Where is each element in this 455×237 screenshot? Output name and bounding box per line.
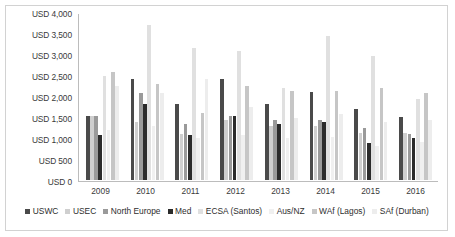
bar[interactable] [135,122,139,180]
legend-item[interactable]: Aus/NZ [269,207,304,215]
bar[interactable] [249,107,253,181]
y-axis-tick-label: USD 500 [39,157,72,165]
x-axis-tick-label: 2009 [78,184,123,198]
legend-swatch-icon [372,209,377,214]
legend-item[interactable]: WAf (Lagos) [312,207,366,215]
bar[interactable] [314,126,318,180]
bar[interactable] [180,134,184,180]
legend-swatch-icon [168,209,173,214]
chart-container: USD 4,000USD 3,500USD 3,000USD 2,500USD … [5,5,448,231]
bar[interactable] [265,104,269,180]
bar[interactable] [131,79,135,180]
bar[interactable] [290,91,294,180]
bar[interactable] [237,51,241,180]
bar[interactable] [367,143,371,180]
bar[interactable] [408,134,412,180]
bar[interactable] [331,137,335,180]
plot-area [78,14,438,182]
bar[interactable] [188,135,192,180]
bar[interactable] [269,126,273,180]
bar[interactable] [175,104,179,180]
bar[interactable] [277,124,281,180]
bar[interactable] [424,93,428,180]
bar-group [170,14,215,180]
bar[interactable] [359,133,363,180]
bar[interactable] [375,146,379,180]
bar[interactable] [282,88,286,180]
bar[interactable] [412,138,416,180]
legend-item[interactable]: USWC [25,207,58,215]
bar[interactable] [147,25,151,180]
legend-swatch-icon [103,209,108,214]
legend-item[interactable]: Med [168,207,192,215]
bar[interactable] [420,142,424,180]
bar-group [214,14,259,180]
legend-label: Med [175,207,191,215]
bar[interactable] [111,72,115,180]
x-axis-tick-label: 2014 [303,184,348,198]
legend-item[interactable]: North Europe [103,207,160,215]
bar[interactable] [196,138,200,180]
bar[interactable] [310,92,314,180]
bar[interactable] [380,88,384,180]
y-axis-tick-label: USD 3,000 [32,52,72,60]
y-axis: USD 4,000USD 3,500USD 3,000USD 2,500USD … [14,14,76,182]
bar[interactable] [107,130,111,180]
legend-swatch-icon [65,209,70,214]
bar[interactable] [354,109,358,180]
bar[interactable] [286,138,290,180]
bar[interactable] [363,128,367,180]
bar[interactable] [399,117,403,180]
bar[interactable] [192,48,196,180]
legend-item[interactable]: SAf (Durban) [372,207,428,215]
bar[interactable] [220,79,224,180]
bar[interactable] [384,122,388,180]
bar[interactable] [184,124,188,180]
bar[interactable] [160,93,164,180]
bar[interactable] [326,36,330,180]
bar[interactable] [371,56,375,180]
bar-group [349,14,394,180]
bar[interactable] [318,120,322,180]
bar[interactable] [273,120,277,180]
bar[interactable] [322,122,326,180]
bar-group [393,14,438,180]
bar[interactable] [428,120,432,180]
bar[interactable] [294,118,298,180]
legend-label: Aus/NZ [277,207,305,215]
bar[interactable] [339,114,343,180]
y-axis-tick-label: USD 1,500 [32,115,72,123]
bar[interactable] [115,86,119,180]
bar[interactable] [98,135,102,180]
bar[interactable] [201,113,205,180]
bar[interactable] [152,126,156,180]
bar[interactable] [139,93,143,180]
legend-swatch-icon [269,209,274,214]
bar[interactable] [86,116,90,180]
legend-item[interactable]: ECSA (Santos) [198,207,262,215]
bar[interactable] [416,99,420,180]
bar-group [80,14,125,180]
bar[interactable] [103,76,107,180]
y-axis-tick-label: USD 1,000 [32,136,72,144]
y-axis-tick-label: USD 0 [48,178,72,186]
y-axis-tick-label: USD 4,000 [32,10,72,18]
bar[interactable] [143,104,147,180]
x-axis-labels: 20092010201120122013201420152016 [78,184,438,198]
bar[interactable] [156,84,160,180]
bar[interactable] [94,116,98,180]
legend-item[interactable]: USEC [65,207,96,215]
bar[interactable] [224,120,228,180]
legend-label: SAf (Durban) [380,207,429,215]
bar[interactable] [335,91,339,180]
bar[interactable] [241,135,245,180]
bar[interactable] [205,79,209,180]
bar[interactable] [245,86,249,181]
bar[interactable] [233,116,237,180]
bar[interactable] [403,133,407,180]
bar[interactable] [229,116,233,180]
legend-label: USWC [33,207,59,215]
legend-label: WAf (Lagos) [319,207,365,215]
bar[interactable] [90,116,94,180]
y-axis-tick-label: USD 2,000 [32,94,72,102]
